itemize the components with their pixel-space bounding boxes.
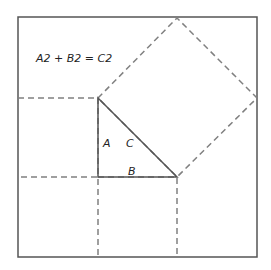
- square-b-dashed: [98, 177, 177, 257]
- label-a: A: [102, 137, 111, 150]
- label-c: C: [126, 137, 134, 150]
- pythagorean-diagram: A2 + B2 = C2 A C B: [0, 0, 271, 270]
- square-c-dashed: [98, 18, 257, 177]
- label-b: B: [128, 165, 136, 178]
- square-a-dashed: [18, 98, 98, 177]
- equation-text: A2 + B2 = C2: [35, 52, 112, 65]
